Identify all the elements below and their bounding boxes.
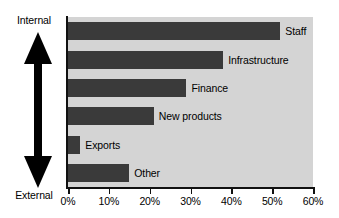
x-tick-mark — [191, 189, 193, 194]
bar-category-label: Staff — [280, 25, 306, 37]
x-tick-label: 40% — [221, 195, 241, 207]
x-tick-mark — [150, 189, 152, 194]
bar-row: Infrastructure — [68, 51, 313, 69]
x-tick-label: 60% — [303, 195, 323, 207]
bar-chart: Internal External StaffInfrastructureFin… — [0, 0, 339, 218]
x-axis-ticks: 0%10%20%30%40%50%60% — [68, 189, 313, 218]
x-tick-label: 20% — [139, 195, 159, 207]
bar-category-label: Infrastructure — [223, 54, 288, 66]
axis-label-external: External — [0, 189, 68, 201]
bar-row: Other — [68, 164, 313, 182]
bar — [68, 79, 186, 97]
double-arrow-icon — [14, 30, 62, 190]
bar-category-label: Finance — [186, 82, 228, 94]
axis-label-internal: Internal — [0, 14, 68, 26]
bar — [68, 164, 129, 182]
bar-category-label: Exports — [80, 139, 120, 151]
bar — [68, 51, 223, 69]
x-tick-mark — [68, 189, 70, 194]
x-tick-mark — [109, 189, 111, 194]
bar-category-label: Other — [129, 167, 160, 179]
bar-category-label: New products — [154, 110, 222, 122]
bar-row: Exports — [68, 136, 313, 154]
x-tick-label: 10% — [99, 195, 119, 207]
x-tick-label: 0% — [61, 195, 76, 207]
bar — [68, 136, 80, 154]
x-tick-mark — [272, 189, 274, 194]
bar-row: Finance — [68, 79, 313, 97]
internal-external-axis: Internal External — [0, 0, 68, 218]
x-tick-mark — [231, 189, 233, 194]
x-tick-mark — [313, 189, 315, 194]
bars-container: StaffInfrastructureFinanceNew productsEx… — [68, 17, 313, 187]
bar — [68, 22, 280, 40]
x-tick-label: 50% — [262, 195, 282, 207]
bar-row: New products — [68, 107, 313, 125]
bar — [68, 107, 154, 125]
x-tick-label: 30% — [180, 195, 200, 207]
bar-row: Staff — [68, 22, 313, 40]
